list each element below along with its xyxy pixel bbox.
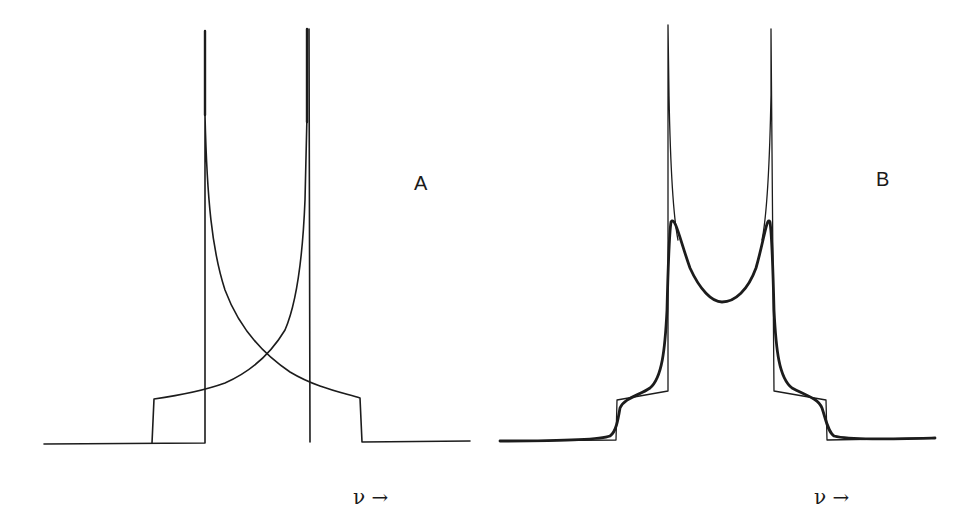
panel-a-plot [44,29,470,444]
panel-a-label: A [414,172,427,195]
panel-a-component-1 [44,31,470,444]
panel-b-plot [500,25,935,441]
panel-a-component-2 [152,29,310,443]
figure: A B ν → ν → [0,0,967,532]
panel-b-x-axis-label: ν → [814,485,849,509]
panel-b-label: B [876,168,889,191]
panel-b-thick-curve [500,221,935,441]
spectra-plot [0,0,967,532]
panel-a-x-axis-label: ν → [353,485,388,509]
panel-b-thin-curve [500,25,935,441]
